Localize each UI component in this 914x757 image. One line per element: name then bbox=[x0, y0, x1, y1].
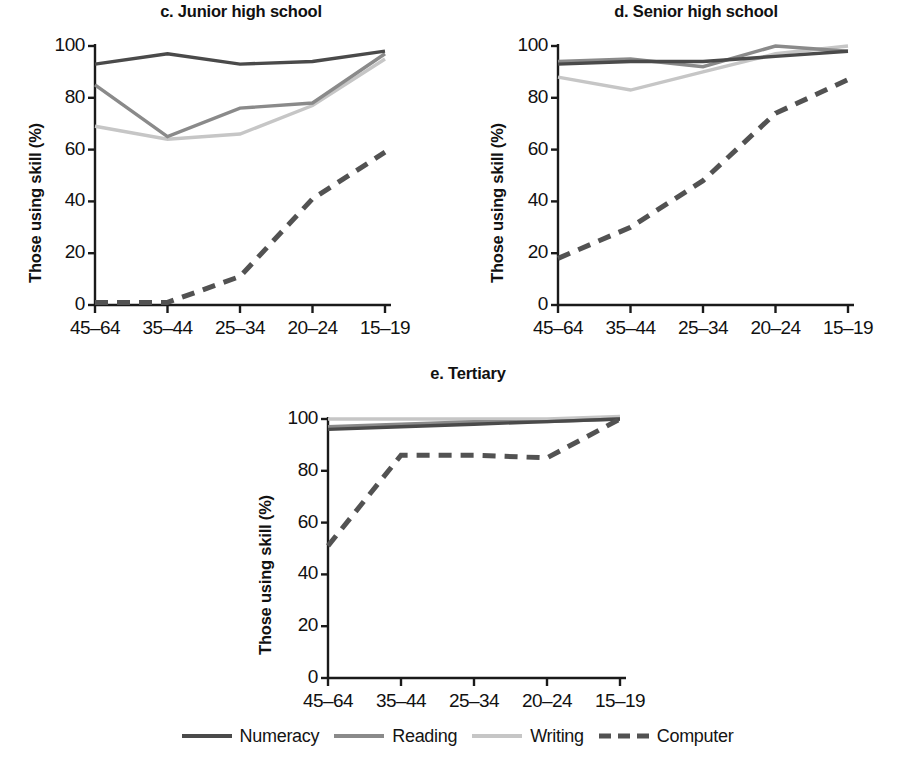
data-series-computer bbox=[328, 419, 620, 546]
figure-panel-group: c. Junior high school Those using skill … bbox=[0, 0, 914, 757]
y-axis-tick-label: 20 bbox=[33, 241, 85, 263]
data-series-writing bbox=[95, 59, 385, 139]
y-axis-tick-label: 60 bbox=[266, 511, 318, 533]
y-axis-tick-label: 80 bbox=[266, 459, 318, 481]
y-axis-tick-label: 60 bbox=[496, 138, 548, 160]
legend-label: Numeracy bbox=[240, 726, 320, 747]
legend-label: Writing bbox=[530, 726, 584, 747]
y-axis-tick-label: 100 bbox=[266, 407, 318, 429]
y-axis-tick-label: 20 bbox=[496, 241, 548, 263]
y-axis-tick-label: 0 bbox=[33, 293, 85, 315]
figure-legend: NumeracyReadingWritingComputer bbox=[0, 716, 914, 756]
y-axis-tick-label: 80 bbox=[33, 86, 85, 108]
x-axis-tick-label: 15–19 bbox=[803, 317, 893, 339]
legend-item-numeracy: Numeracy bbox=[181, 726, 320, 747]
legend-swatch-reading-icon bbox=[333, 729, 385, 743]
legend-swatch-numeracy-icon bbox=[181, 729, 233, 743]
y-axis-tick-label: 20 bbox=[266, 614, 318, 636]
legend-swatch-computer-icon bbox=[598, 729, 650, 743]
data-series-numeracy bbox=[95, 51, 385, 64]
y-axis-tick-label: 100 bbox=[496, 34, 548, 56]
legend-swatch-writing-icon bbox=[471, 729, 523, 743]
legend-item-computer: Computer bbox=[598, 726, 734, 747]
legend-label: Reading bbox=[392, 726, 457, 747]
y-axis-tick-label: 100 bbox=[33, 34, 85, 56]
data-series-computer bbox=[95, 152, 385, 302]
data-series-computer bbox=[558, 80, 848, 259]
data-series-numeracy bbox=[558, 51, 848, 64]
chart-panel-tertiary: e. Tertiary Those using skill (%) 020406… bbox=[228, 362, 690, 712]
x-axis-tick-label: 15–19 bbox=[575, 690, 665, 712]
chart-panel-senior-high-school: d. Senior high school Those using skill … bbox=[458, 0, 914, 345]
data-series-writing bbox=[328, 416, 620, 419]
legend-item-reading: Reading bbox=[333, 726, 457, 747]
y-axis-tick-label: 0 bbox=[266, 666, 318, 688]
legend-label: Computer bbox=[657, 726, 734, 747]
y-axis-tick-label: 40 bbox=[33, 189, 85, 211]
y-axis-tick-label: 0 bbox=[496, 293, 548, 315]
chart-panel-junior-high-school: c. Junior high school Those using skill … bbox=[0, 0, 460, 345]
y-axis-tick-label: 80 bbox=[496, 86, 548, 108]
legend-item-writing: Writing bbox=[471, 726, 584, 747]
y-axis-tick-label: 40 bbox=[266, 562, 318, 584]
y-axis-tick-label: 60 bbox=[33, 138, 85, 160]
y-axis-tick-label: 40 bbox=[496, 189, 548, 211]
x-axis-tick-label: 15–19 bbox=[340, 317, 430, 339]
data-series-reading bbox=[95, 54, 385, 137]
